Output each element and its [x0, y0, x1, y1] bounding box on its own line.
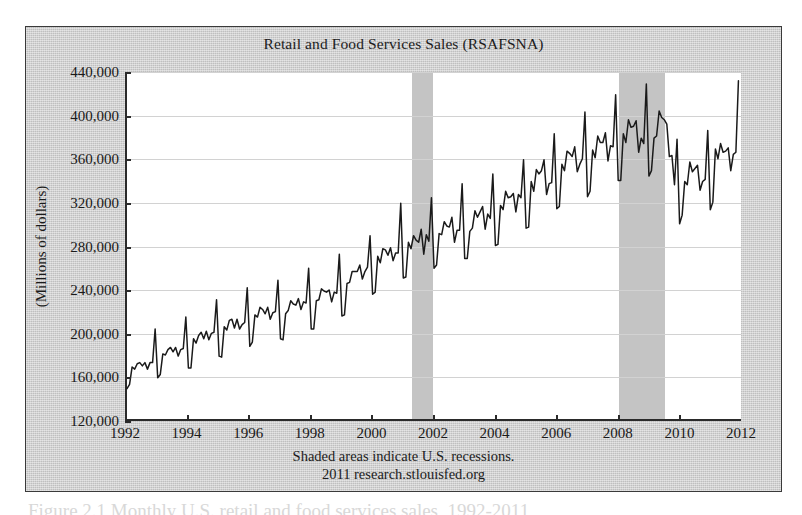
- chart-footnotes: Shaded areas indicate U.S. recessions. 2…: [26, 447, 781, 483]
- x-axis-tick-label: 2004: [480, 425, 510, 442]
- y-axis-tick-label: 440,000: [70, 64, 119, 81]
- y-axis-tick-label: 200,000: [70, 325, 119, 342]
- y-axis-tick-mark: [125, 203, 131, 205]
- y-axis-tick-label: 400,000: [70, 107, 119, 124]
- x-axis-tick-mark: [371, 415, 373, 421]
- x-axis-tick-label: 1996: [233, 425, 263, 442]
- x-axis-tick-label: 2006: [541, 425, 571, 442]
- series-line-chart: [127, 72, 741, 419]
- x-axis-tick-label: 2010: [664, 425, 694, 442]
- y-axis-tick-mark: [125, 159, 131, 161]
- series-polyline: [127, 81, 738, 389]
- y-axis-tick-mark: [125, 72, 131, 74]
- y-axis-tick-mark: [125, 247, 131, 249]
- y-axis-tick-labels: 120,000160,000200,000240,000280,000320,0…: [26, 27, 119, 491]
- y-axis-tick-mark: [125, 421, 131, 423]
- figure-frame: Retail and Food Services Sales (RSAFSNA)…: [25, 26, 782, 492]
- x-axis-tick-mark: [495, 415, 497, 421]
- y-axis-tick-mark: [125, 116, 131, 118]
- x-axis-tick-label: 2002: [418, 425, 448, 442]
- x-axis-tick-mark: [556, 415, 558, 421]
- x-axis-tick-mark: [618, 415, 620, 421]
- x-axis-tick-mark: [310, 415, 312, 421]
- y-axis-tick-mark: [125, 377, 131, 379]
- page-caption: Figure 2.1 Monthly U.S. retail and food …: [28, 500, 768, 515]
- x-axis-tick-label: 1992: [110, 425, 140, 442]
- y-axis-tick-mark: [125, 334, 131, 336]
- x-axis-tick-mark: [248, 415, 250, 421]
- x-axis-tick-mark: [679, 415, 681, 421]
- footnote-source: 2011 research.stlouisfed.org: [26, 465, 781, 483]
- x-axis-tick-label: 1994: [172, 425, 202, 442]
- y-axis-tick-label: 280,000: [70, 238, 119, 255]
- x-axis-tick-label: 2000: [356, 425, 386, 442]
- x-axis-tick-mark: [433, 415, 435, 421]
- plot-area: [125, 72, 741, 421]
- y-axis-tick-label: 320,000: [70, 194, 119, 211]
- y-axis-tick-label: 160,000: [70, 369, 119, 386]
- y-axis-tick-label: 240,000: [70, 282, 119, 299]
- y-axis-tick-mark: [125, 290, 131, 292]
- x-axis-tick-label: 1998: [295, 425, 325, 442]
- chart-title: Retail and Food Services Sales (RSAFSNA): [26, 35, 781, 53]
- x-axis-tick-mark: [187, 415, 189, 421]
- x-axis-tick-label: 2008: [603, 425, 633, 442]
- x-axis-tick-label: 2012: [726, 425, 756, 442]
- footnote-recessions: Shaded areas indicate U.S. recessions.: [26, 447, 781, 465]
- y-axis-tick-label: 360,000: [70, 151, 119, 168]
